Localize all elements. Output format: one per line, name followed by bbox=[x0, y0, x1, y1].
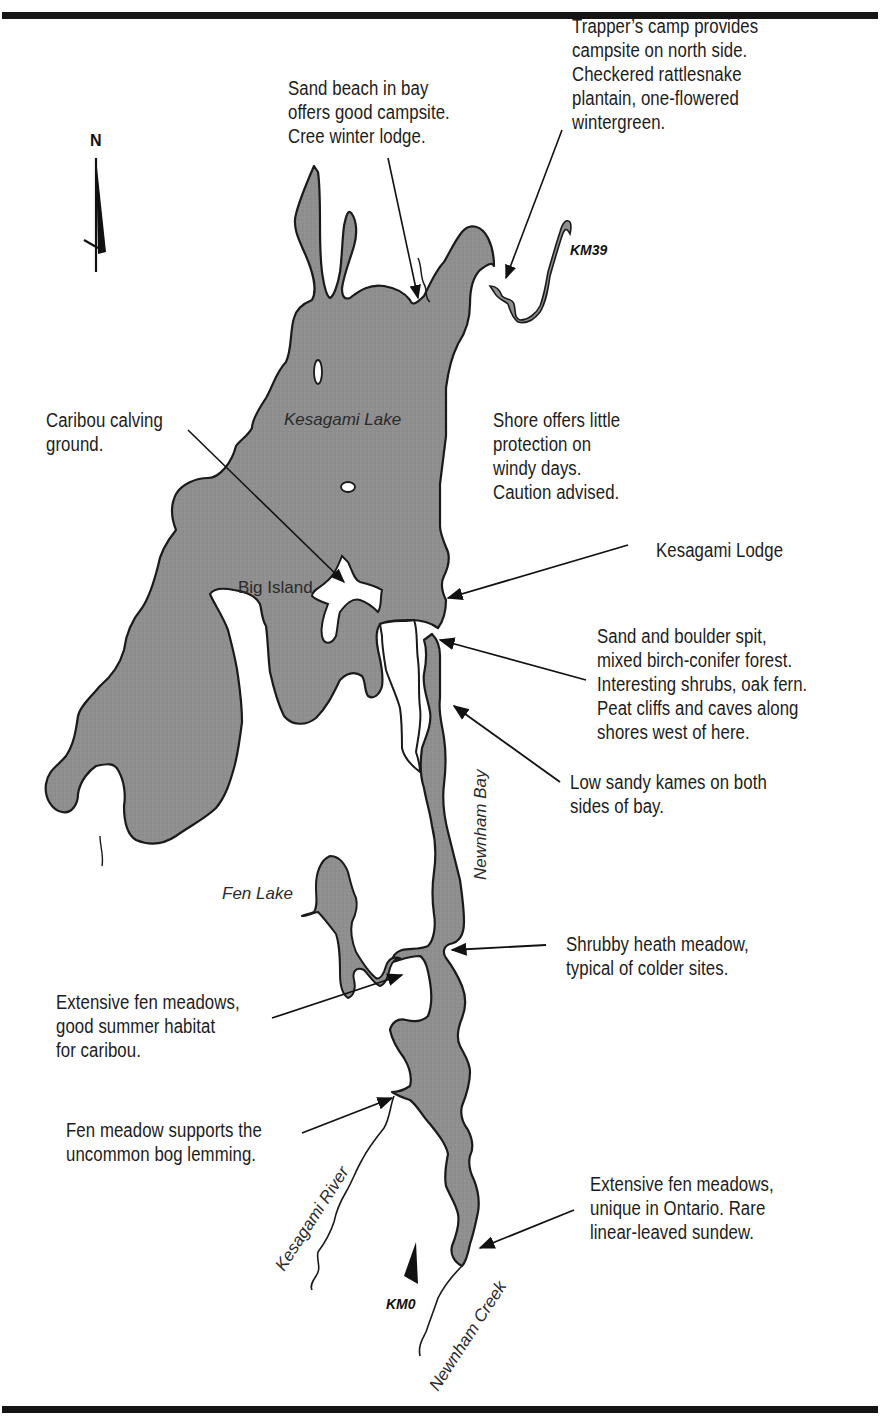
leader-sandy-kames bbox=[454, 706, 560, 782]
note-sand-boulder-spit: Sand and boulder spit, mixed birch-conif… bbox=[597, 624, 807, 744]
island-small-north bbox=[314, 360, 322, 384]
leader-sand-beach bbox=[388, 158, 418, 298]
fen-lake-label: Fen Lake bbox=[222, 884, 293, 904]
newnham-creek-label: Newnham Creek bbox=[425, 1276, 511, 1394]
km0-direction-icon bbox=[404, 1242, 418, 1284]
note-trappers-camp: Trapper’s camp provides campsite on nort… bbox=[572, 14, 758, 134]
km0-marker-label: KM0 bbox=[386, 1296, 416, 1312]
note-shore-protection: Shore offers little protection on windy … bbox=[493, 408, 620, 504]
leader-fen-meadows-ontario bbox=[480, 1210, 574, 1248]
km39-river bbox=[490, 221, 571, 323]
north-arrow-icon bbox=[84, 158, 106, 272]
leader-fen-meadows-caribou bbox=[272, 975, 402, 1018]
note-bog-lemming: Fen meadow supports the uncommon bog lem… bbox=[66, 1118, 262, 1166]
north-label: N bbox=[90, 132, 102, 150]
kesagami-river-label: Kesagami River bbox=[271, 1162, 353, 1274]
leader-shrubby-heath bbox=[452, 945, 546, 950]
note-shrubby-heath: Shrubby heath meadow, typical of colder … bbox=[566, 932, 749, 980]
note-caribou-calving: Caribou calving ground. bbox=[46, 408, 163, 456]
newnham-bay-label: Newnham Bay bbox=[471, 768, 490, 880]
note-kesagami-lodge: Kesagami Lodge bbox=[656, 538, 783, 562]
kesagami-lake-label: Kesagami Lake bbox=[284, 410, 401, 430]
big-island-label: Big Island bbox=[238, 578, 313, 598]
channel-cutout bbox=[380, 620, 421, 772]
island-small-central bbox=[341, 482, 355, 492]
note-sand-beach: Sand beach in bay offers good campsite. … bbox=[288, 76, 450, 148]
note-fen-meadows-caribou: Extensive fen meadows, good summer habit… bbox=[56, 990, 240, 1062]
leader-kesagami-lodge bbox=[448, 545, 628, 598]
leader-bog-lemming bbox=[302, 1098, 392, 1133]
note-fen-meadows-ontario: Extensive fen meadows, unique in Ontario… bbox=[590, 1172, 774, 1244]
leader-sand-boulder-spit bbox=[440, 640, 586, 680]
west-inlet-stream bbox=[100, 836, 103, 866]
note-sandy-kames: Low sandy kames on both sides of bay. bbox=[570, 770, 767, 818]
km39-marker-label: KM39 bbox=[570, 242, 607, 258]
fen-lake-shape bbox=[302, 856, 400, 998]
